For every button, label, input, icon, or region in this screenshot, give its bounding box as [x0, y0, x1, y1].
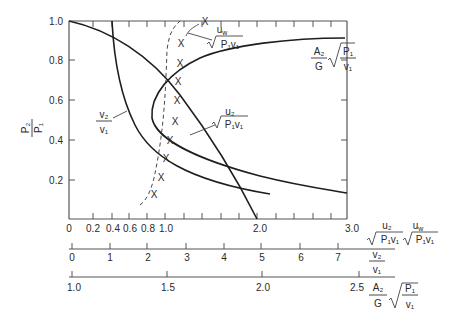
y-label-1.0: 1.0	[49, 16, 63, 27]
svg-text:G: G	[374, 298, 382, 309]
x-marker: X	[177, 58, 184, 69]
x-marker: X	[175, 76, 182, 87]
x2-title: v₂ v₁	[369, 249, 385, 275]
x2-label-6: 6	[298, 252, 304, 263]
x1-label-2.0: 2.0	[253, 223, 267, 234]
svg-text:v₁: v₁	[344, 61, 353, 72]
svg-text:uw: uw	[413, 220, 425, 232]
x-ticks-scale1	[93, 21, 331, 219]
x1-label-0: 0	[66, 223, 72, 234]
svg-text:P₁: P₁	[343, 46, 354, 57]
svg-text:A₂: A₂	[373, 282, 384, 293]
y-ticks	[69, 60, 347, 180]
uw-markers: X X X X X X X X X X	[151, 16, 209, 200]
y-title-den: P₁	[33, 122, 44, 133]
x1-label-3.0: 3.0	[345, 223, 359, 234]
y-title-num: P₂	[20, 123, 31, 134]
x1-label-0.4: 0.4	[106, 223, 120, 234]
y-label-0.8: 0.8	[49, 55, 63, 66]
svg-text:v₁: v₁	[406, 299, 415, 310]
annotation-a2: A₂ G P₁ v₁	[311, 43, 356, 72]
x-marker: X	[163, 153, 170, 164]
chart-canvas: 1.0 0.8 0.6 0.4 0.2 P₂ P₁	[0, 0, 452, 324]
x-marker: X	[202, 16, 209, 27]
x1-label-0.2: 0.2	[86, 223, 100, 234]
svg-text:uw: uw	[217, 24, 229, 36]
svg-text:P₁: P₁	[405, 283, 416, 294]
x-marker: X	[151, 189, 158, 200]
x1-label-0.8: 0.8	[141, 223, 155, 234]
y-label-0.4: 0.4	[49, 135, 63, 146]
x-marker: X	[172, 116, 179, 127]
x-scale-a2: 1.0 1.5 2.0 2.5 A₂ G P₁ v₁	[67, 271, 418, 310]
svg-text:v₁: v₁	[100, 124, 109, 135]
svg-text:P₁v₁: P₁v₁	[221, 39, 240, 50]
svg-text:G: G	[315, 61, 323, 72]
svg-text:v₂: v₂	[373, 249, 382, 260]
svg-text:A₂: A₂	[314, 46, 325, 57]
x-tick-labels-scale1: 0 0.2 0.4 0.6 0.8 1.0 2.0 3.0	[66, 223, 359, 234]
svg-text:P₁v₁: P₁v₁	[225, 119, 244, 130]
annotation-uw: uw P₁v₁	[186, 24, 243, 50]
svg-text:u₂: u₂	[225, 106, 235, 117]
x-marker: X	[174, 95, 181, 106]
y-axis-title: P₂ P₁	[20, 119, 44, 137]
x2-label-1: 1	[107, 252, 113, 263]
x-marker: X	[158, 172, 165, 183]
x1-label-0.6: 0.6	[123, 223, 137, 234]
x1-title-u2: u₂ P₁v₁	[367, 220, 403, 245]
y-tick-labels: 1.0 0.8 0.6 0.4 0.2	[49, 16, 63, 186]
x2-label-5: 5	[259, 252, 265, 263]
x3-label-1.5: 1.5	[161, 282, 175, 293]
x2-label-2: 2	[145, 252, 151, 263]
x2-label-4: 4	[221, 252, 227, 263]
annotation-v2v1: v₂ v₁	[96, 109, 127, 135]
x-marker: X	[178, 38, 185, 49]
svg-text:v₁: v₁	[373, 264, 382, 275]
x3-label-1.0: 1.0	[67, 282, 81, 293]
x2-label-7: 7	[335, 252, 341, 263]
svg-text:u₂: u₂	[382, 220, 392, 231]
x3-label-2.5: 2.5	[350, 282, 364, 293]
x1-title-uw: uw P₁v₁	[403, 220, 438, 245]
x2-label-3: 3	[184, 252, 190, 263]
svg-text:P₁v₁: P₁v₁	[381, 234, 400, 245]
x3-title: A₂ G P₁ v₁	[369, 282, 418, 310]
svg-text:P₁v₁: P₁v₁	[416, 234, 435, 245]
x-scale-v2v1: 0 1 2 3 4 5 6 7 v₂ v₁	[69, 243, 395, 275]
x2-label-0: 0	[69, 252, 75, 263]
y-label-0.2: 0.2	[49, 175, 63, 186]
x1-label-1.0: 1.0	[159, 223, 173, 234]
plot-frame	[69, 21, 347, 219]
svg-text:v₂: v₂	[100, 109, 109, 120]
curve-v2-v1	[112, 21, 270, 194]
y-label-0.6: 0.6	[49, 95, 63, 106]
x-marker: X	[167, 135, 174, 146]
x3-label-2.0: 2.0	[256, 282, 270, 293]
